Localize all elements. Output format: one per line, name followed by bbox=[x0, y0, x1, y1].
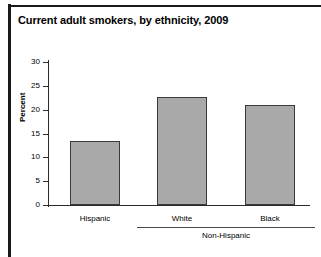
y-tick-label: 10 bbox=[31, 151, 40, 162]
y-tick-mark bbox=[43, 205, 48, 206]
chart-title: Current adult smokers, by ethnicity, 200… bbox=[18, 14, 228, 26]
group-label-non-hispanic: Non-Hispanic bbox=[137, 230, 315, 241]
chart-figure: Current adult smokers, by ethnicity, 200… bbox=[0, 0, 321, 257]
y-tick-10: 10 bbox=[48, 157, 49, 158]
y-tick-label: 25 bbox=[31, 80, 40, 91]
y-tick-20: 20 bbox=[48, 110, 49, 111]
bar-black bbox=[245, 105, 295, 205]
plot-area: 051015202530 bbox=[48, 62, 310, 205]
y-tick-label: 20 bbox=[31, 104, 40, 115]
y-tick-label: 0 bbox=[36, 199, 40, 210]
figure-border-top bbox=[11, 5, 321, 7]
group-bracket-rule bbox=[137, 227, 315, 228]
x-axis-line bbox=[48, 205, 310, 206]
y-tick-label: 15 bbox=[31, 128, 40, 139]
category-label-black: Black bbox=[225, 213, 315, 224]
y-tick-5: 5 bbox=[48, 181, 49, 182]
y-tick-mark bbox=[43, 157, 48, 158]
y-tick-30: 30 bbox=[48, 62, 49, 63]
y-tick-label: 5 bbox=[36, 175, 40, 186]
bar-hispanic bbox=[70, 141, 120, 205]
y-tick-mark bbox=[43, 62, 48, 63]
y-axis-label: Percent bbox=[18, 93, 27, 122]
bar-white bbox=[157, 97, 207, 205]
y-tick-0: 0 bbox=[48, 205, 49, 206]
y-tick-mark bbox=[43, 134, 48, 135]
y-tick-mark bbox=[43, 86, 48, 87]
y-tick-15: 15 bbox=[48, 134, 49, 135]
category-label-white: White bbox=[137, 213, 227, 224]
y-tick-mark bbox=[43, 110, 48, 111]
y-tick-mark bbox=[43, 181, 48, 182]
category-label-hispanic: Hispanic bbox=[50, 213, 140, 224]
y-tick-25: 25 bbox=[48, 86, 49, 87]
figure-border-left bbox=[8, 4, 11, 257]
y-tick-label: 30 bbox=[31, 56, 40, 67]
